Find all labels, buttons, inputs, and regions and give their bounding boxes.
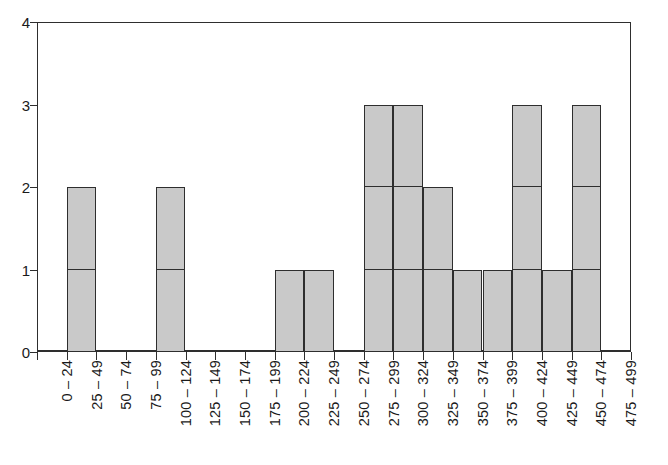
bar-segment-divider <box>365 186 393 187</box>
x-tick-mark <box>601 352 602 360</box>
x-tick-label: 450 – 474 <box>593 360 609 465</box>
x-tick-mark <box>275 352 276 360</box>
x-tick-label: 200 – 224 <box>296 360 312 465</box>
x-tick-label: 150 – 174 <box>237 360 253 465</box>
histogram-bar <box>542 270 572 353</box>
histogram-bar <box>483 270 513 353</box>
x-tick-mark <box>483 352 484 360</box>
histogram-bar <box>572 105 602 353</box>
x-tick-label: 175 – 199 <box>267 360 283 465</box>
x-tick-label: 300 – 324 <box>415 360 431 465</box>
y-tick-mark <box>30 270 37 271</box>
x-tick-label: 250 – 274 <box>356 360 372 465</box>
x-tick-label: 400 – 424 <box>534 360 550 465</box>
x-tick-label: 425 – 449 <box>564 360 580 465</box>
x-tick-mark <box>453 352 454 360</box>
histogram-bar <box>512 105 542 353</box>
x-tick-mark <box>572 352 573 360</box>
bar-segment-divider <box>68 269 96 270</box>
bar-segment-divider <box>394 186 422 187</box>
bar-segment-divider <box>513 186 541 187</box>
x-tick-mark <box>364 352 365 360</box>
y-tick-mark <box>30 22 37 23</box>
x-tick-mark <box>37 352 38 360</box>
x-tick-label: 325 – 349 <box>445 360 461 465</box>
histogram-bar <box>364 105 394 353</box>
x-tick-label: 25 – 49 <box>89 360 105 465</box>
histogram-bar <box>453 270 483 353</box>
x-tick-label: 0 – 24 <box>59 360 75 465</box>
histogram-chart: 01234 0 – 2425 – 4950 – 7475 – 99100 – 1… <box>0 0 668 465</box>
x-tick-label: 350 – 374 <box>475 360 491 465</box>
bar-segment-divider <box>424 269 452 270</box>
x-tick-mark <box>96 352 97 360</box>
x-tick-mark <box>186 352 187 360</box>
histogram-bar <box>156 187 186 352</box>
x-tick-mark <box>393 352 394 360</box>
bar-segment-divider <box>513 269 541 270</box>
x-tick-mark <box>334 352 335 360</box>
x-tick-mark <box>423 352 424 360</box>
x-tick-mark <box>156 352 157 360</box>
histogram-bar <box>304 270 334 353</box>
x-tick-label: 50 – 74 <box>118 360 134 465</box>
histogram-bar <box>67 187 97 352</box>
x-tick-mark <box>245 352 246 360</box>
bar-segment-divider <box>573 186 601 187</box>
x-tick-mark <box>215 352 216 360</box>
y-tick-mark <box>30 105 37 106</box>
x-tick-mark <box>512 352 513 360</box>
y-tick-mark <box>30 187 37 188</box>
x-tick-label: 125 – 149 <box>207 360 223 465</box>
x-tick-label: 225 – 249 <box>326 360 342 465</box>
x-tick-mark <box>304 352 305 360</box>
y-axis: 01234 <box>0 0 30 465</box>
histogram-bar <box>423 187 453 352</box>
bar-segment-divider <box>365 269 393 270</box>
x-tick-mark <box>126 352 127 360</box>
y-tick-label: 2 <box>2 180 30 195</box>
x-tick-label: 375 – 399 <box>504 360 520 465</box>
bar-segment-divider <box>573 269 601 270</box>
x-tick-mark <box>631 352 632 360</box>
x-tick-label: 100 – 124 <box>178 360 194 465</box>
x-tick-label: 75 – 99 <box>148 360 164 465</box>
y-tick-label: 0 <box>2 345 30 360</box>
bar-segment-divider <box>157 269 185 270</box>
x-tick-label: 475 – 499 <box>623 360 639 465</box>
y-tick-label: 1 <box>2 262 30 277</box>
x-tick-mark <box>67 352 68 360</box>
y-tick-mark <box>30 352 37 353</box>
histogram-bar <box>393 105 423 353</box>
x-tick-mark <box>542 352 543 360</box>
y-tick-label: 3 <box>2 97 30 112</box>
y-tick-label: 4 <box>2 15 30 30</box>
x-tick-label: 275 – 299 <box>386 360 402 465</box>
bar-segment-divider <box>394 269 422 270</box>
histogram-bar <box>275 270 305 353</box>
